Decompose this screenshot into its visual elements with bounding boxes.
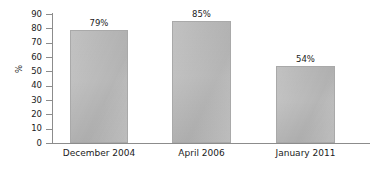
y-axis-tick-label: 20 [0, 110, 42, 119]
y-axis-tick [46, 100, 52, 101]
y-axis-tick-label: 50 [0, 67, 42, 76]
y-axis-tick [46, 28, 52, 29]
y-axis-tick-label: 10 [0, 124, 42, 133]
y-axis-tick-label: 0 [0, 139, 42, 148]
y-axis-tick-label: 80 [0, 24, 42, 33]
y-axis-tick-label: 40 [0, 81, 42, 90]
bar-value-label: 85% [172, 10, 231, 19]
y-axis-tick [46, 43, 52, 44]
bar [276, 66, 335, 143]
x-axis-line [52, 143, 370, 144]
y-axis-tick [46, 143, 52, 144]
bar [172, 21, 231, 143]
bar-chart: % 9080706050403020100 79%December 200485… [0, 0, 379, 171]
y-axis-tick [46, 57, 52, 58]
y-axis-tick [46, 14, 52, 15]
x-axis-category-label: January 2011 [250, 148, 361, 159]
y-axis-tick [46, 114, 52, 115]
y-axis-tick-label: 60 [0, 53, 42, 62]
y-axis-tick-label: 70 [0, 38, 42, 47]
bar-value-label: 54% [276, 55, 335, 64]
y-axis-tick-label: 90 [0, 10, 42, 19]
x-axis-category-label: April 2006 [146, 148, 257, 159]
bar [70, 30, 128, 143]
bar-value-label: 79% [70, 19, 128, 28]
y-axis-line [52, 13, 53, 144]
y-axis-tick [46, 86, 52, 87]
y-axis-tick-label: 30 [0, 96, 42, 105]
x-axis-category-label: December 2004 [44, 148, 154, 159]
y-axis-tick [46, 71, 52, 72]
y-axis-tick [46, 129, 52, 130]
